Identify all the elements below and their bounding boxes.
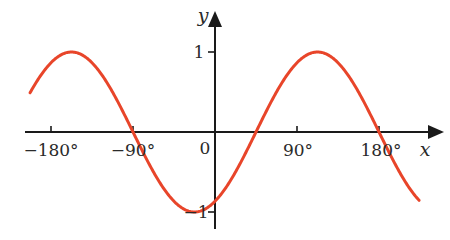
- y-tick-label-1: 1: [194, 42, 205, 62]
- y-axis-arrow-icon: [208, 11, 222, 27]
- y-axis-label: y: [197, 4, 209, 26]
- origin-label: 0: [200, 138, 211, 158]
- x-tick-label-180: 180°: [361, 140, 402, 160]
- x-tick-label-neg90: −90°: [111, 140, 155, 160]
- x-tick-label-90: 90°: [283, 140, 313, 160]
- x-axis-label: x: [420, 138, 431, 160]
- x-axis-arrow-icon: [428, 125, 444, 139]
- chart: −180° −90° 0 90° 180° 1 −1 x y: [0, 0, 450, 240]
- x-tick-label-neg180: −180°: [23, 140, 78, 160]
- y-tick-label-neg1: −1: [183, 202, 208, 222]
